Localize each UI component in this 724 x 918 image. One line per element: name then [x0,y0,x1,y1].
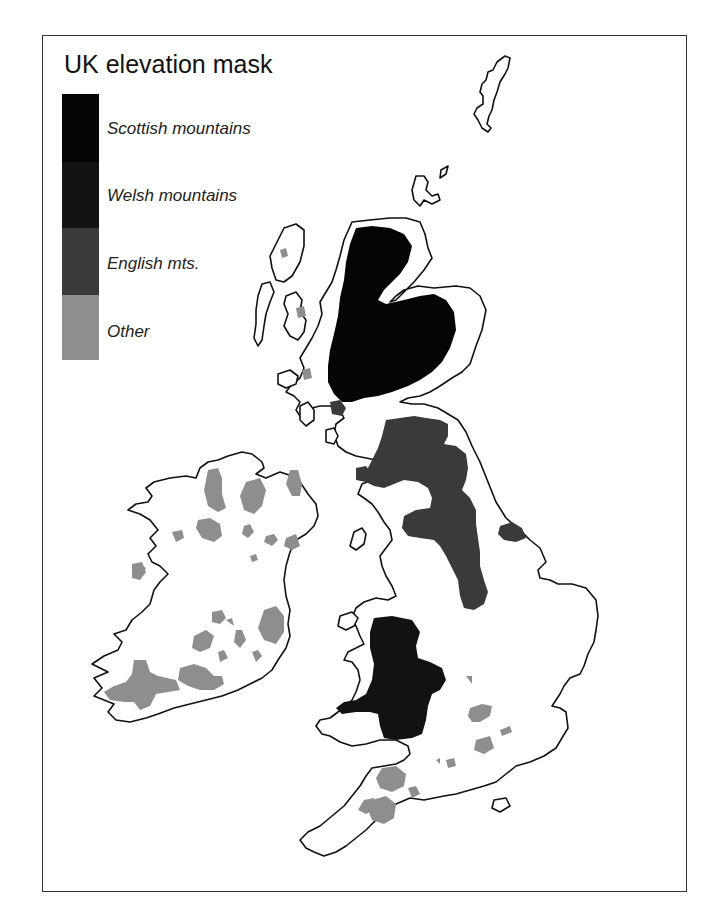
isle-of-man-outline [350,528,366,550]
uk-ireland-map [0,0,724,918]
uist-outline [254,282,274,346]
isle-of-wight-outline [492,798,510,812]
anglesey-outline [338,612,358,630]
orkney-outline [412,176,440,206]
orkney-islet [440,166,448,178]
shetland-outline [474,56,510,132]
